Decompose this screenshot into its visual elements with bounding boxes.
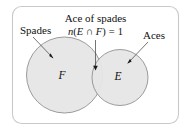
set-letter-f: F <box>57 69 66 81</box>
formula-close-paren: ) <box>102 26 106 38</box>
formula-equals: = <box>109 26 115 37</box>
label-aces: Aces <box>143 29 165 41</box>
label-spades: Spades <box>20 24 51 36</box>
venn-diagram-figure: Spades Aces Ace of spades n(E∩F)=1 F E <box>0 0 191 130</box>
label-ace-of-spades: Ace of spades <box>65 12 127 24</box>
set-letter-e: E <box>113 70 121 82</box>
formula-set-a: E <box>76 26 84 37</box>
venn-diagram-canvas: Spades Aces Ace of spades n(E∩F)=1 F E <box>0 0 191 130</box>
formula-operator: ∩ <box>86 26 94 37</box>
formula-value: 1 <box>118 26 123 37</box>
